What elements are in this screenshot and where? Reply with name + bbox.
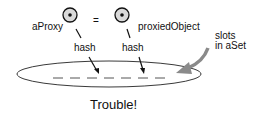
- proxied-object-label: proxiedObject: [138, 21, 200, 32]
- proxied-object-icon: [115, 8, 129, 22]
- aproxy-object-icon: [63, 8, 77, 22]
- aproxy-label: aProxy: [32, 21, 63, 32]
- hash-arrow-right: [139, 57, 145, 74]
- connector-right: [127, 29, 130, 38]
- hash-label-left: hash: [74, 42, 96, 53]
- aset-ellipse: [17, 61, 201, 87]
- slots-pointer-arrow: [176, 48, 208, 74]
- hash-arrow-left: [89, 57, 99, 74]
- caption: Trouble!: [90, 97, 137, 112]
- equals-sign: =: [93, 15, 99, 26]
- slots-label-line2: in aSet: [215, 40, 246, 51]
- hash-label-right: hash: [122, 42, 144, 53]
- connector-left: [76, 29, 81, 38]
